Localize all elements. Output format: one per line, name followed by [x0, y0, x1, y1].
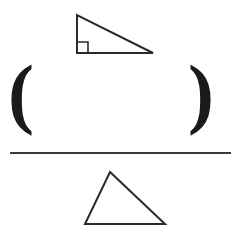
left-parenthesis: (	[8, 54, 34, 132]
figure-canvas: ( )	[0, 0, 237, 234]
scalene-triangle-shape	[85, 172, 165, 224]
right-angle-marker-icon	[77, 42, 88, 53]
right-parenthesis: )	[188, 54, 214, 132]
